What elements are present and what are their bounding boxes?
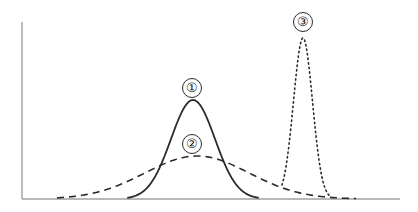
curve-label-3: ③ <box>293 12 313 32</box>
curve-series-3 <box>282 38 330 196</box>
curve-series-2 <box>57 156 356 199</box>
axes-group <box>22 22 400 199</box>
chart-figure: ① ② ③ <box>0 0 418 212</box>
curve-label-2: ② <box>182 134 202 154</box>
chart-plot-area <box>0 0 418 212</box>
curve-label-1: ① <box>182 78 202 98</box>
curves-group <box>57 38 356 199</box>
